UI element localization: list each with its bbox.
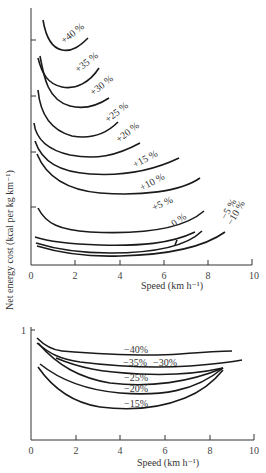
chart-figure: 0 2 4 6 8 10 Speed (km h⁻¹) +40 % +35 % … (0, 0, 266, 473)
label-plus-5: +5 % (150, 194, 174, 213)
curve-zero (35, 232, 195, 245)
label-plus-25: +25 % (102, 100, 130, 125)
bottom-origin-label: 0 (29, 445, 34, 456)
bottom-x-tick-label: 2 (74, 445, 79, 456)
label-plus-15: +15 % (131, 148, 160, 170)
bottom-x-tick-label: 8 (208, 445, 213, 456)
top-x-tick-label: 8 (206, 270, 211, 281)
top-origin-label: 0 (29, 270, 34, 281)
bottom-x-axis-title: Speed (km h⁻¹) (137, 457, 199, 469)
label-minus-35: −35% (123, 357, 147, 368)
bottom-x-tick-label: 6 (163, 445, 168, 456)
label-plus-35: +35 % (72, 50, 100, 75)
label-minus-25: −25% (124, 372, 148, 383)
top-x-tick-label: 2 (73, 270, 78, 281)
y-axis-title: Net energy cost (kcal per kg km⁻¹) (4, 170, 16, 310)
label-minus-20: −20% (124, 383, 148, 394)
curve-zero-marker (175, 240, 177, 245)
bottom-x-tick-label: 10 (249, 445, 259, 456)
label-minus-40: −40% (124, 344, 148, 355)
top-x-tick-label: 4 (118, 270, 123, 281)
bottom-panel: 1 0 2 4 6 8 10 Speed (km h⁻¹) −40% −35% … (21, 325, 259, 469)
label-plus-10: +10 % (138, 171, 167, 193)
label-plus-40: +40 % (58, 21, 86, 46)
bottom-y-tick-label: 1 (21, 325, 26, 336)
label-minus-30: −30% (153, 357, 177, 368)
label-minus-15: −15% (124, 398, 148, 409)
top-x-tick-label: 10 (249, 270, 259, 281)
top-panel: 0 2 4 6 8 10 Speed (km h⁻¹) +40 % +35 % … (29, 8, 260, 292)
bottom-x-tick-label: 4 (118, 445, 123, 456)
top-x-axis-title: Speed (km h⁻¹) (141, 280, 203, 292)
